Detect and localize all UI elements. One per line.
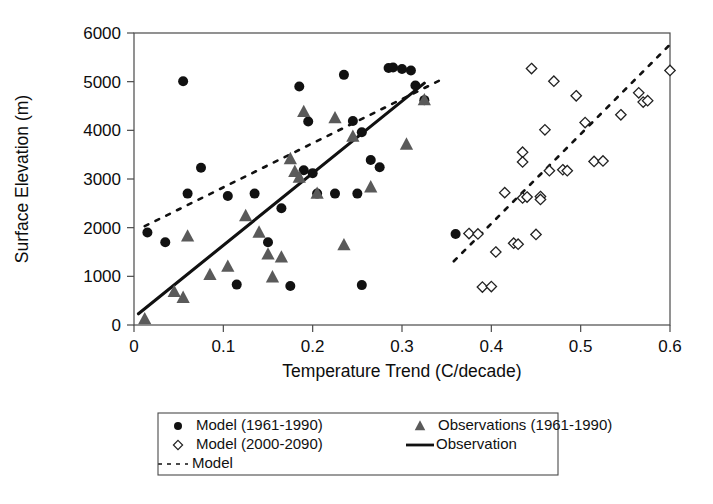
data-point-circle <box>357 280 367 290</box>
legend-entry-label: Observations (1961-1990) <box>438 416 612 433</box>
data-point-diamond <box>540 125 550 135</box>
y-axis-ticks: 0100020003000400050006000 <box>83 24 134 335</box>
data-point-diamond <box>665 65 675 75</box>
data-point-circle <box>406 65 416 75</box>
data-point-triangle <box>168 285 181 297</box>
legend-marker-triangle-icon <box>415 420 426 430</box>
data-point-circle <box>339 70 349 80</box>
data-point-diamond <box>500 187 510 197</box>
data-point-circle <box>142 228 152 238</box>
x-tick-label: 0.4 <box>480 337 504 356</box>
data-point-triangle <box>328 111 341 123</box>
data-point-circle <box>223 191 233 201</box>
data-point-circle <box>410 81 420 91</box>
data-point-triangle <box>284 152 297 164</box>
model-trendline <box>454 43 672 262</box>
scatter-plot-svg: 00.10.20.30.40.50.6 01000200030004000500… <box>0 0 713 504</box>
data-point-circle <box>348 116 358 126</box>
data-point-circle <box>352 189 362 199</box>
legend-entry-label: Model <box>192 454 233 471</box>
y-tick-label: 3000 <box>83 170 121 189</box>
y-tick-label: 5000 <box>83 73 121 92</box>
data-point-diamond <box>517 157 527 167</box>
series-model-2000-2090 <box>464 63 675 292</box>
y-axis-title: Surface Elevation (m) <box>12 95 32 263</box>
y-tick-label: 1000 <box>83 267 121 286</box>
legend: Model (1961-1990)Model (2000-2090)ModelO… <box>158 413 612 475</box>
x-axis-title: Temperature Trend (C/decade) <box>282 361 521 381</box>
data-point-diamond <box>473 229 483 239</box>
legend-marker-diamond-icon <box>173 440 182 449</box>
x-tick-label: 0.3 <box>390 337 414 356</box>
data-point-triangle <box>297 105 310 117</box>
data-point-circle <box>276 203 286 213</box>
data-point-circle <box>451 229 461 239</box>
data-point-diamond <box>598 156 608 166</box>
data-point-triangle <box>261 247 274 259</box>
data-point-triangle <box>239 209 252 221</box>
data-point-circle <box>263 237 273 247</box>
data-point-triangle <box>203 268 216 280</box>
y-tick-label: 0 <box>112 316 121 335</box>
data-point-diamond <box>491 247 501 257</box>
data-point-diamond <box>531 229 541 239</box>
data-point-diamond <box>549 76 559 86</box>
data-point-triangle <box>181 229 194 241</box>
data-point-triangle <box>221 259 234 271</box>
chart-figure: 00.10.20.30.40.50.6 01000200030004000500… <box>0 0 713 504</box>
data-point-circle <box>250 189 260 199</box>
legend-items: Model (1961-1990)Model (2000-2090)ModelO… <box>158 416 612 471</box>
x-tick-label: 0.6 <box>658 337 682 356</box>
data-point-circle <box>330 189 340 199</box>
y-tick-label: 6000 <box>83 24 121 43</box>
data-point-circle <box>388 63 398 73</box>
data-point-circle <box>294 82 304 92</box>
legend-entry-label: Model (1961-1990) <box>196 416 323 433</box>
data-point-circle <box>357 127 367 137</box>
legend-entry-label: Model (2000-2090) <box>196 435 323 452</box>
data-point-circle <box>232 280 242 290</box>
x-axis-ticks: 00.10.20.30.40.50.6 <box>129 325 682 356</box>
data-point-circle <box>303 117 313 127</box>
data-point-diamond <box>634 88 644 98</box>
data-point-diamond <box>616 110 626 120</box>
data-point-diamond <box>486 281 496 291</box>
data-point-diamond <box>571 91 581 101</box>
data-point-circle <box>196 163 206 173</box>
observation-trendline <box>138 83 424 314</box>
data-point-triangle <box>252 225 265 237</box>
legend-marker-circle-icon <box>174 422 182 430</box>
data-point-circle <box>397 64 407 74</box>
data-point-circle <box>375 162 385 172</box>
plot-frame <box>134 33 670 325</box>
data-point-circle <box>285 281 295 291</box>
x-tick-label: 0 <box>129 337 138 356</box>
data-point-circle <box>178 76 188 86</box>
x-tick-label: 0.5 <box>569 337 593 356</box>
y-tick-label: 4000 <box>83 121 121 140</box>
model-trendline <box>145 79 442 226</box>
y-tick-label: 2000 <box>83 219 121 238</box>
data-point-triangle <box>337 238 350 250</box>
data-point-triangle <box>400 137 413 149</box>
x-tick-label: 0.1 <box>212 337 236 356</box>
data-point-triangle <box>364 180 377 192</box>
data-point-circle <box>160 237 170 247</box>
data-point-diamond <box>544 166 554 176</box>
data-point-triangle <box>266 270 279 282</box>
data-point-circle <box>183 189 193 199</box>
x-tick-label: 0.2 <box>301 337 325 356</box>
data-point-diamond <box>526 63 536 73</box>
data-point-triangle <box>275 250 288 262</box>
data-point-circle <box>308 168 318 178</box>
data-point-circle <box>366 155 376 165</box>
legend-entry-label: Observation <box>436 435 517 452</box>
trendline-group <box>138 43 671 314</box>
